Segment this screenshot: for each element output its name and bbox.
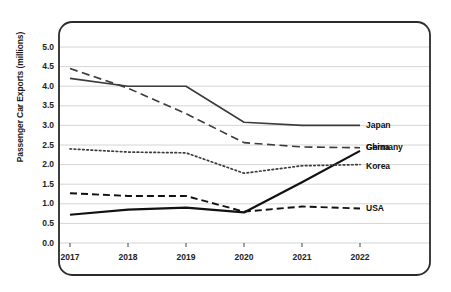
series-line-china: [70, 151, 360, 215]
y-axis-tick-label: 4.5: [28, 61, 54, 71]
x-axis-tick-label: 2019: [166, 252, 206, 262]
series-line-korea: [70, 149, 360, 173]
y-axis-tick-label: 0.0: [28, 238, 54, 248]
x-axis-tick-label: 2021: [282, 252, 322, 262]
series-label-korea: Korea: [366, 161, 390, 171]
x-axis-tick-label: 2020: [224, 252, 264, 262]
y-axis-tick-label: 5.0: [28, 42, 54, 52]
y-axis-tick-label: 3.0: [28, 120, 54, 130]
series-line-usa: [70, 193, 360, 211]
series-line-germany: [70, 69, 360, 148]
series-label-japan: Japan: [366, 120, 391, 130]
y-axis-tick-label: 1.5: [28, 179, 54, 189]
y-axis-tick-label: 4.0: [28, 81, 54, 91]
data-series-layer: [70, 69, 360, 215]
y-axis-tick-label: 2.5: [28, 140, 54, 150]
x-axis-tick-label: 2022: [340, 252, 380, 262]
series-label-china: China: [366, 142, 390, 152]
y-axis-tick-label: 0.5: [28, 218, 54, 228]
series-label-usa: USA: [366, 203, 384, 213]
x-axis-tick-label: 2017: [50, 252, 90, 262]
y-axis-tick-label: 2.0: [28, 159, 54, 169]
series-line-japan: [70, 78, 360, 125]
y-axis-tick-label: 1.0: [28, 198, 54, 208]
y-axis-tick-label: 3.5: [28, 100, 54, 110]
chart-container: Passenger Car Exports (millions) 0.00.51…: [0, 0, 451, 292]
y-axis-title: Passenger Car Exports (millions): [15, 7, 25, 187]
x-axis-tick-marks: [70, 243, 360, 247]
x-axis-tick-label: 2018: [108, 252, 148, 262]
